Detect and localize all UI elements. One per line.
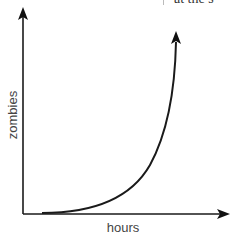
growth-chart: hours zombies (0, 0, 230, 242)
growth-curve (42, 42, 176, 213)
x-axis-label: hours (107, 220, 140, 235)
y-axis-label: zombies (5, 90, 20, 139)
